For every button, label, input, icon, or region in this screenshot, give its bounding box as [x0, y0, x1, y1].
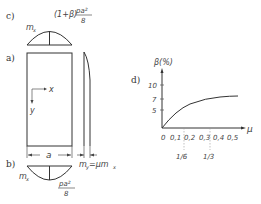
x-tick-0-5: 0,5 — [227, 134, 239, 142]
x-tick-0-1: 0,1 — [170, 134, 181, 142]
x-tick-0: 0 — [161, 134, 166, 142]
panel-c-moment-curve — [27, 31, 72, 45]
special-tick-1-6: 1/6 — [176, 153, 188, 161]
y-tick-5: 5 — [152, 107, 157, 115]
panel-b-moment-curve — [27, 166, 72, 180]
panel-c-peak-prefix: (1+β) — [54, 10, 77, 19]
panel-b-label: b) — [6, 159, 15, 169]
x-tick-0-4: 0,4 — [213, 134, 224, 142]
plate-rectangle — [27, 53, 72, 146]
panel-a-label: a) — [6, 53, 15, 63]
chart-x-axis-label: μ — [246, 124, 253, 134]
panel-b-my-rest: =μm — [89, 160, 109, 169]
panel-c-mx-sub: x — [32, 27, 36, 33]
beta-mu-curve — [162, 96, 238, 128]
x-tick-0-3: 0,3 — [199, 134, 210, 142]
x-tick-0-2: 0,2 — [184, 134, 196, 142]
y-tick-10: 10 — [148, 82, 157, 90]
panel-c-label: c) — [6, 11, 15, 21]
panel-d-label: d) — [131, 75, 140, 85]
panel-b-mx-sub: x — [25, 176, 29, 182]
local-axes-icon — [31, 88, 48, 105]
y-tick-7: 7 — [152, 96, 157, 104]
panel-b-my-rest-sub: x — [112, 164, 116, 170]
axis-y-label: y — [29, 106, 35, 115]
panel-c-peak-num: pa² — [75, 7, 88, 15]
axis-x-label: x — [48, 85, 54, 94]
panel-b-peak-den: 8 — [64, 190, 69, 198]
plate-moment-diagram: c) m x (1+β) pa² 8 a) x y a — [0, 0, 261, 204]
dimension-side — [77, 146, 97, 158]
chart-axes — [160, 68, 246, 130]
plate-side-profile — [84, 52, 90, 146]
panel-b-peak-num: pa² — [58, 180, 71, 188]
panel-c-peak-den: 8 — [81, 17, 86, 25]
dimension-a-label: a — [46, 150, 52, 160]
chart-y-axis-label: β(%) — [153, 58, 173, 67]
special-tick-1-3: 1/3 — [203, 153, 214, 161]
